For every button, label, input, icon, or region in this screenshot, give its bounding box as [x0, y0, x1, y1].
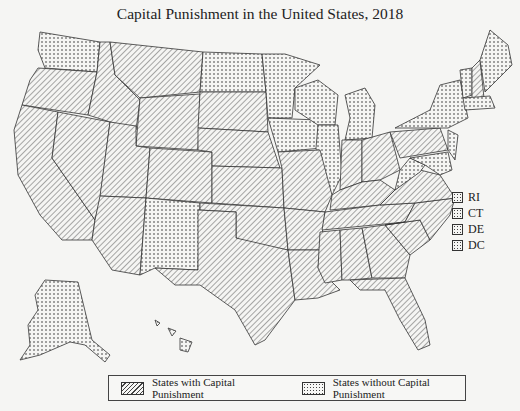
hatch-swatch-icon [121, 382, 144, 395]
state-in [340, 140, 362, 190]
us-map [0, 0, 520, 411]
dot-swatch-icon [452, 224, 463, 235]
state-sd [198, 92, 268, 132]
state-ma [463, 96, 495, 110]
state-mi [345, 88, 375, 140]
state-nj [448, 130, 458, 160]
state-fl [350, 278, 430, 350]
dot-swatch-icon [452, 208, 463, 219]
small-states-legend: RI CT DE DC [452, 189, 485, 253]
state-ms [318, 230, 342, 283]
small-state-ri: RI [452, 189, 485, 205]
small-state-dc: DC [452, 237, 485, 253]
state-hi [155, 320, 192, 352]
state-nm [140, 198, 200, 275]
legend-item-with: States with Capital Punishment [121, 376, 272, 400]
state-ny [395, 80, 468, 128]
state-ar [284, 208, 325, 250]
state-wy [136, 94, 200, 150]
legend-item-without: States without Capital Punishment [302, 376, 465, 400]
map-legend: States with Capital Punishment States wi… [108, 375, 466, 401]
small-state-de: DE [452, 221, 485, 237]
state-ks [212, 166, 284, 208]
dot-swatch-icon [452, 192, 463, 203]
state-wa [38, 32, 100, 72]
state-ia [268, 118, 322, 152]
state-me [480, 30, 512, 92]
dot-swatch-icon [302, 382, 325, 395]
state-wi [295, 80, 338, 125]
state-nd [200, 52, 266, 92]
state-ak [20, 280, 110, 362]
dot-swatch-icon [452, 240, 463, 251]
state-co [146, 148, 212, 203]
state-az [92, 196, 146, 275]
small-state-ct: CT [452, 205, 485, 221]
